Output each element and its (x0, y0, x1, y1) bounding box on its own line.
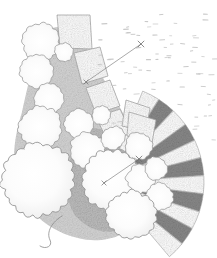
canopy-outline (92, 105, 111, 125)
tree-canopy (92, 105, 111, 125)
tree-canopy (54, 42, 73, 61)
landscape-plan-canvas (0, 0, 217, 258)
canopy-outline (54, 42, 73, 61)
plan-drawing (0, 0, 217, 258)
